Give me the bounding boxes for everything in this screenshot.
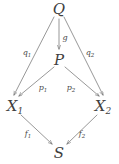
edge-label-p1: p1	[39, 84, 48, 92]
diagram-arrows-layer	[0, 0, 119, 164]
node-label-S: S	[54, 146, 64, 161]
arrow-p1	[19, 67, 54, 96]
edge-sub-f1: 1	[28, 133, 32, 139]
edge-label-f1: f1	[25, 130, 31, 138]
node-base-P: P	[54, 51, 64, 69]
edge-label-q1: q1	[23, 49, 32, 57]
node-base-X1: X	[7, 97, 18, 115]
node-sub-X1: 1	[17, 106, 23, 116]
edge-label-p2: p2	[67, 84, 76, 92]
commutative-diagram: Q P X1 X2 S q1 g q2 p1 p2 f1 f2	[0, 0, 119, 164]
edge-label-f2: f2	[79, 130, 85, 138]
node-base-Q: Q	[53, 0, 65, 18]
edge-sub-p2: 2	[72, 87, 76, 93]
edge-label-q2: q2	[86, 49, 95, 57]
edge-sub-p1: 1	[44, 87, 48, 93]
node-label-X2: X2	[95, 99, 111, 114]
edge-base-g: g	[62, 33, 67, 42]
edge-sub-q2: 2	[91, 52, 95, 58]
node-label-P: P	[54, 53, 64, 68]
node-base-X2: X	[95, 97, 106, 115]
edge-sub-q1: 1	[28, 52, 32, 58]
edge-sub-f2: 2	[82, 133, 86, 139]
node-label-X1: X1	[7, 99, 23, 114]
node-label-Q: Q	[53, 2, 65, 17]
node-base-S: S	[54, 144, 64, 162]
edge-label-g: g	[62, 34, 67, 42]
node-sub-X2: 2	[105, 106, 111, 116]
